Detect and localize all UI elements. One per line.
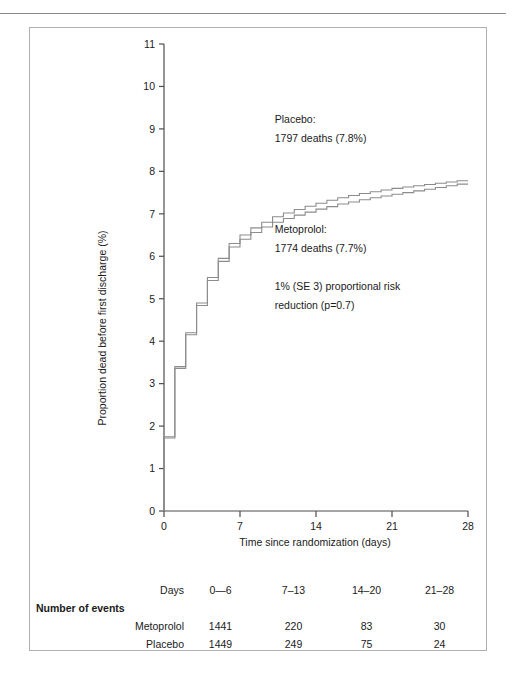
x-axis-title: Time since randomization (days) (239, 536, 390, 548)
metoprolol-annotation: 1774 deaths (7.7%) (275, 242, 367, 254)
chart-annotations: Placebo:1797 deaths (7.8%)Metoprolol:177… (275, 113, 401, 312)
y-axis-tick-label: 9 (149, 123, 155, 135)
y-axis-tick-label: 7 (149, 208, 155, 220)
x-axis-tick-label: 21 (386, 520, 398, 532)
event-count-cell: 75 (330, 635, 403, 653)
table-row: Placebo14492497524 (36, 635, 476, 653)
number-of-events-table: Days0—67–1314–2021–28Number of eventsMet… (36, 581, 476, 653)
y-axis-tick-label: 10 (143, 80, 155, 92)
y-axis-tick-label: 1 (149, 462, 155, 474)
days-range-header: 0—6 (184, 581, 257, 599)
y-axis-tick-label: 4 (149, 335, 155, 347)
figure-panel: 01234567891011 07142128 Placebo:1797 dea… (29, 27, 487, 651)
y-axis-tick-label: 8 (149, 165, 155, 177)
event-count-cell: 220 (257, 617, 330, 635)
metoprolol-annotation: Metoprolol: (275, 223, 327, 235)
event-count-cell: 1449 (184, 635, 257, 653)
empty-cell (184, 599, 257, 617)
event-count-cell: 1441 (184, 617, 257, 635)
days-header-label: Days (36, 581, 184, 599)
days-range-header: 21–28 (403, 581, 476, 599)
risk-reduction-annotation: reduction (p=0.7) (275, 299, 355, 311)
risk-reduction-annotation: 1% (SE 3) proportional risk (275, 280, 401, 292)
y-axis-tick-label: 11 (144, 38, 155, 50)
empty-cell (257, 599, 330, 617)
table-row: Metoprolol14412208330 (36, 617, 476, 635)
table-row-header: Days0—67–1314–2021–28 (36, 581, 476, 599)
group-label: Metoprolol (36, 617, 184, 635)
x-axis-tick-label: 28 (462, 520, 474, 532)
y-axis-tick-label: 2 (149, 420, 155, 432)
chart-plot-area: 01234567891011 07142128 Placebo:1797 dea… (30, 28, 488, 652)
y-axis-title: Proportion dead before first discharge (… (96, 231, 108, 426)
y-axis-tick-label: 0 (149, 505, 155, 517)
empty-cell (330, 599, 403, 617)
y-axis-tick-label: 5 (149, 293, 155, 305)
table-row-section: Number of events (36, 599, 476, 617)
top-divider-rule (0, 13, 506, 14)
x-axis-tick-label: 14 (310, 520, 322, 532)
y-axis-tick-label: 3 (149, 377, 155, 389)
events-table-wrapper: Days0—67–1314–2021–28Number of eventsMet… (30, 581, 488, 653)
x-axis-tick-label: 0 (161, 520, 167, 532)
event-count-cell: 249 (257, 635, 330, 653)
event-count-cell: 24 (403, 635, 476, 653)
placebo-annotation: 1797 deaths (7.8%) (275, 132, 367, 144)
placebo-annotation: Placebo: (275, 113, 316, 125)
event-count-cell: 30 (403, 617, 476, 635)
days-range-header: 14–20 (330, 581, 403, 599)
empty-cell (403, 599, 476, 617)
number-of-events-label: Number of events (36, 599, 184, 617)
event-count-cell: 83 (330, 617, 403, 635)
y-axis: 01234567891011 (143, 38, 164, 517)
days-range-header: 7–13 (257, 581, 330, 599)
x-axis-tick-label: 7 (237, 520, 243, 532)
group-label: Placebo (36, 635, 184, 653)
y-axis-tick-label: 6 (149, 250, 155, 262)
x-axis: 07142128 (161, 511, 474, 532)
km-curve-svg: 01234567891011 07142128 Placebo:1797 dea… (30, 28, 488, 652)
